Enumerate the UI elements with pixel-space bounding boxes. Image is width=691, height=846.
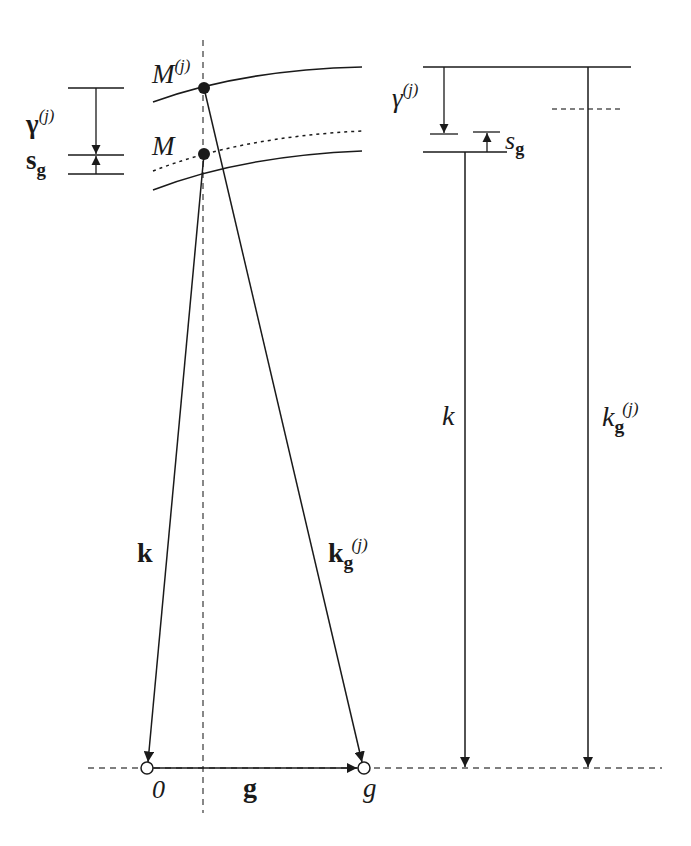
label-gamma-right: γ(j) bbox=[392, 82, 418, 112]
label-origin: 0 bbox=[152, 777, 165, 803]
label-kg-vector-sub: g bbox=[344, 552, 354, 573]
label-M-j-sup: (j) bbox=[175, 56, 191, 75]
label-kg-magnitude: kg(j) bbox=[602, 400, 639, 437]
origin-point bbox=[141, 762, 153, 774]
k-vector bbox=[148, 154, 204, 762]
label-M-j-base: M bbox=[152, 59, 175, 89]
label-gamma-right-sup: (j) bbox=[403, 80, 419, 99]
label-k-vector: k bbox=[137, 539, 153, 567]
label-gamma-left-base: γ bbox=[26, 109, 39, 139]
label-kg-magnitude-base: k bbox=[602, 401, 614, 432]
label-M: M bbox=[152, 133, 175, 160]
label-sg-right-sub: g bbox=[515, 139, 524, 159]
label-gamma-right-base: γ bbox=[392, 83, 403, 113]
label-M-j: M(j) bbox=[152, 58, 190, 88]
label-g-vector-base: g bbox=[243, 772, 257, 803]
label-k-vector-base: k bbox=[137, 537, 153, 568]
label-sg-left-sub: g bbox=[37, 159, 46, 180]
label-k-magnitude-base: k bbox=[442, 400, 454, 431]
label-sg-left-base: s bbox=[26, 145, 37, 175]
label-k-magnitude: k bbox=[442, 402, 454, 430]
sphere-arc-dotted bbox=[153, 131, 362, 171]
label-kg-magnitude-sub: g bbox=[614, 416, 624, 437]
label-g-point-base: g bbox=[363, 773, 377, 803]
label-gamma-left: γ(j) bbox=[26, 108, 54, 138]
diagram-graphics bbox=[0, 0, 691, 846]
label-origin-base: 0 bbox=[152, 775, 165, 804]
label-sg-left: sg bbox=[26, 147, 46, 180]
label-M-base: M bbox=[152, 131, 175, 161]
label-kg-vector: kg(j) bbox=[328, 536, 368, 573]
point-M bbox=[198, 148, 210, 160]
label-gamma-left-sup: (j) bbox=[39, 106, 55, 125]
diagram-canvas: M(j) M γ(j) sg γ(j) sg k kg(j) k kg(j) 0… bbox=[0, 0, 691, 846]
label-g-vector: g bbox=[243, 774, 257, 802]
point-M-j bbox=[198, 82, 210, 94]
kg-vector bbox=[204, 88, 362, 762]
sphere-arc-lower bbox=[153, 151, 362, 190]
label-kg-vector-base: k bbox=[328, 537, 344, 568]
label-kg-magnitude-sup: (j) bbox=[622, 399, 638, 418]
label-sg-right-base: s bbox=[505, 126, 515, 155]
label-sg-right: sg bbox=[505, 128, 524, 159]
label-kg-vector-sup: (j) bbox=[351, 535, 367, 554]
label-g-point: g bbox=[363, 775, 377, 802]
